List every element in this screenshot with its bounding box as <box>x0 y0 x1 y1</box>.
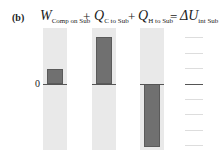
zero-label: 0 <box>35 78 40 89</box>
tick-delta-u <box>185 130 203 131</box>
bar-w-comp <box>47 69 63 84</box>
tick-delta-u <box>185 53 203 54</box>
baseline-delta-u <box>185 84 203 85</box>
baseline-3 <box>140 84 164 85</box>
plus-2: + <box>128 9 135 25</box>
column-q-c <box>92 28 116 150</box>
tick-delta-u <box>185 145 203 146</box>
tick-delta-u <box>185 114 203 115</box>
baseline-2 <box>92 84 116 85</box>
panel-label: (b) <box>12 12 24 23</box>
bar-q-h <box>144 84 160 147</box>
baseline-1 <box>43 84 67 85</box>
tick-delta-u <box>185 37 203 38</box>
equals: = <box>170 9 177 25</box>
column-q-h <box>140 28 164 150</box>
plus-1: + <box>83 9 90 25</box>
term-q-c: QC to Sub <box>94 8 129 25</box>
tick-delta-u <box>185 68 203 69</box>
term-q-h: QH to Sub <box>138 8 173 25</box>
tick-delta-u <box>185 99 203 100</box>
bar-q-c <box>96 37 112 84</box>
column-w-comp <box>43 28 67 150</box>
term-delta-u: ΔUint Sub <box>180 8 218 25</box>
